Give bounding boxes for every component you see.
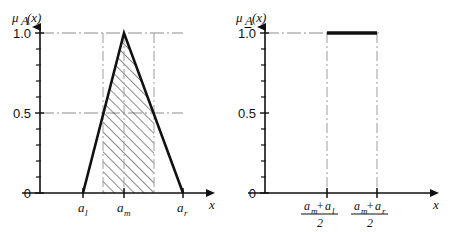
frac-num-al-base: a <box>325 199 331 213</box>
x-tick-label-al-base: a <box>78 200 85 215</box>
frac-num-ar-base: a <box>375 199 381 213</box>
frac-num-plus: + <box>366 199 374 213</box>
x-tick-label-ar: a r <box>177 200 188 218</box>
x-tick-label-al: a l <box>78 200 88 218</box>
x-tick-label-am-base: a <box>117 200 124 215</box>
x-tick-label-ar-sub: r <box>184 208 188 218</box>
frac-denominator: 2 <box>317 216 323 230</box>
y-tick-label-1.0: 1.0 <box>13 26 31 41</box>
right-chart-svg: 1.0 0.5 0 μ A (x) x a m + a l 2 <box>226 0 453 232</box>
frac-num-plus: + <box>316 199 324 213</box>
x-tick-label-al-sub: l <box>85 208 88 218</box>
y-axis-title-arg: (x) <box>252 10 266 25</box>
y-axis-title-arg: (x) <box>27 10 41 25</box>
x-axis-title: x <box>208 197 215 212</box>
right-hatched-region <box>124 33 154 193</box>
frac-denominator: 2 <box>367 216 373 230</box>
x-tick-label-ar-base: a <box>177 200 184 215</box>
x-tick-label-left-midpoint: a m + a l 2 <box>301 199 338 230</box>
y-axis-title-mu: μ <box>11 10 19 25</box>
x-axis-title: x <box>432 197 439 212</box>
y-tick-label-1.0: 1.0 <box>238 26 256 41</box>
y-tick-label-0.5: 0.5 <box>13 106 31 121</box>
y-tick-label-0: 0 <box>249 186 256 201</box>
figure-container: 1.0 0.5 0 μ A (x) x a l a m a r <box>0 0 453 232</box>
x-tick-label-right-midpoint: a m + a r 2 <box>351 199 388 230</box>
y-tick-label-0.5: 0.5 <box>238 106 256 121</box>
y-tick-label-0: 0 <box>24 186 31 201</box>
y-axis-title-mu: μ <box>235 10 243 25</box>
chart-left-panel: 1.0 0.5 0 μ A (x) x a l a m a r <box>0 0 226 232</box>
frac-num-am-base: a <box>304 199 310 213</box>
frac-num-am-base: a <box>354 199 360 213</box>
left-hatched-region <box>103 33 124 193</box>
left-chart-svg: 1.0 0.5 0 μ A (x) x a l a m a r <box>0 0 226 232</box>
chart-right-panel: 1.0 0.5 0 μ A (x) x a m + a l 2 <box>226 0 453 232</box>
x-tick-label-am: a m <box>117 200 131 218</box>
x-tick-label-am-sub: m <box>124 208 131 218</box>
